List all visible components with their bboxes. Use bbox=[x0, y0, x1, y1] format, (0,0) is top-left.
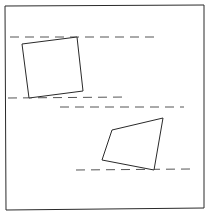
dashed-line-2 bbox=[8, 97, 128, 98]
square-lower-right bbox=[102, 118, 163, 170]
dashed-line-4 bbox=[76, 169, 190, 170]
outer-frame bbox=[5, 5, 204, 210]
square-upper-left bbox=[22, 37, 83, 98]
diagram-canvas bbox=[0, 0, 210, 216]
squares bbox=[22, 37, 163, 170]
